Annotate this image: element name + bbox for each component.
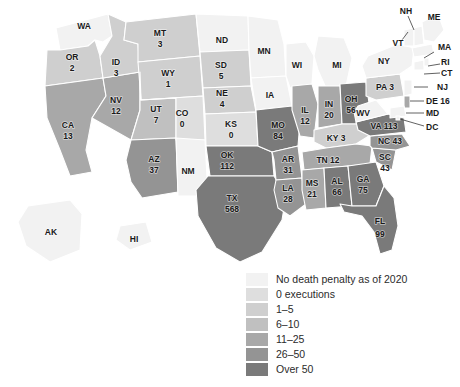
label-OR: OR	[66, 52, 79, 62]
leader-line-ri	[428, 64, 440, 66]
legend-swatch-none	[246, 273, 268, 286]
value-TX: 568	[225, 204, 239, 214]
legend-swatch-26-50	[246, 348, 268, 361]
legend-item-26-50[interactable]: 26–50	[246, 347, 460, 362]
label-SC: SC	[379, 152, 391, 162]
label-IN: IN	[325, 99, 334, 109]
label-MI: MI	[332, 60, 341, 70]
label-IL: IL	[301, 105, 309, 115]
legend-item-over-50[interactable]: Over 50	[246, 362, 460, 377]
value-AZ: 37	[149, 165, 159, 175]
legend-item-6-10[interactable]: 6–10	[246, 317, 460, 332]
label-RI: RI	[441, 57, 450, 67]
value-FL: 99	[375, 229, 385, 239]
label-NE: NE	[216, 88, 228, 98]
label-AK: AK	[45, 227, 58, 237]
value-ID: 3	[114, 68, 119, 78]
state-RI[interactable]	[424, 58, 429, 66]
label-WI: WI	[292, 60, 302, 70]
label-TX: TX	[227, 193, 238, 203]
map-legend: No death penalty as of 2020 0 executions…	[246, 272, 460, 377]
state-NE[interactable]	[203, 86, 256, 114]
state-CA[interactable]	[45, 78, 106, 176]
label-AR: AR	[282, 154, 294, 164]
label-HI: HI	[130, 234, 139, 244]
label-MA: MA	[438, 42, 451, 52]
label-NM: NM	[181, 166, 194, 176]
state-DC[interactable]	[396, 116, 400, 120]
label-DC: DC	[426, 122, 438, 132]
label-NJ: NJ	[437, 82, 448, 92]
label-LA: LA	[282, 183, 293, 193]
value-SD: 5	[219, 71, 224, 81]
label-CO: CO	[176, 108, 189, 118]
value-OK: 112	[220, 161, 234, 171]
state-OK[interactable]	[206, 146, 274, 176]
execution-map-figure: WA OR 2 CA 13 NV 12 ID 3 MT 3 WY 1 UT 7 …	[0, 0, 460, 387]
label-CA: CA	[62, 120, 74, 130]
state-WA[interactable]	[56, 14, 112, 50]
legend-item-1-5[interactable]: 1–5	[246, 302, 460, 317]
label-KS: KS	[225, 119, 237, 129]
legend-label-zero: 0 executions	[276, 288, 335, 301]
label-GA: GA	[357, 174, 370, 184]
value-CO: 0	[180, 119, 185, 129]
label-ME: ME	[428, 12, 441, 22]
label-NY: NY	[378, 56, 390, 66]
label-MD: MD	[426, 108, 439, 118]
legend-label-none: No death penalty as of 2020	[276, 273, 407, 286]
label-NC: NC 43	[378, 136, 402, 146]
label-ID: ID	[112, 57, 121, 67]
state-ND[interactable]	[196, 14, 249, 52]
value-MO: 84	[273, 131, 283, 141]
label-AL: AL	[331, 176, 342, 186]
label-ND: ND	[216, 35, 228, 45]
value-KS: 0	[229, 130, 234, 140]
state-DE[interactable]	[404, 96, 410, 108]
label-DE: DE 16	[426, 96, 450, 106]
legend-item-zero[interactable]: 0 executions	[246, 287, 460, 302]
label-FL: FL	[375, 216, 385, 226]
value-NV: 12	[111, 106, 121, 116]
label-OK: OK	[221, 150, 235, 160]
value-OR: 2	[70, 63, 75, 73]
value-OH: 56	[346, 105, 356, 115]
legend-swatch-6-10	[246, 318, 268, 331]
value-AL: 66	[332, 187, 342, 197]
label-WY: WY	[161, 68, 175, 78]
legend-label-6-10: 6–10	[276, 318, 299, 331]
state-VT[interactable]	[404, 28, 414, 46]
label-PA: PA 3	[376, 82, 394, 92]
label-NH: NH	[400, 6, 412, 16]
label-IA: IA	[266, 90, 275, 100]
legend-swatch-11-25	[246, 333, 268, 346]
legend-label-26-50: 26–50	[276, 348, 305, 361]
value-IL: 12	[300, 116, 310, 126]
label-WV: WV	[356, 108, 370, 118]
leader-line-ct	[424, 73, 440, 74]
label-OH: OH	[345, 94, 358, 104]
legend-swatch-1-5	[246, 303, 268, 316]
label-NV: NV	[110, 95, 122, 105]
legend-item-11-25[interactable]: 11–25	[246, 332, 460, 347]
label-AZ: AZ	[148, 154, 159, 164]
state-TX[interactable]	[196, 176, 286, 262]
state-CT[interactable]	[414, 60, 424, 70]
label-MS: MS	[306, 178, 319, 188]
label-MN: MN	[257, 46, 270, 56]
legend-swatch-over-50	[246, 363, 268, 376]
label-MO: MO	[271, 120, 285, 130]
value-WY: 1	[166, 79, 171, 89]
value-MS: 21	[307, 189, 317, 199]
value-MT: 3	[158, 39, 163, 49]
label-MT: MT	[154, 28, 167, 38]
value-LA: 28	[283, 194, 293, 204]
leader-line-nh	[408, 16, 414, 30]
value-UT: 7	[154, 115, 159, 125]
label-SD: SD	[215, 60, 227, 70]
legend-label-1-5: 1–5	[276, 303, 294, 316]
legend-item-none[interactable]: No death penalty as of 2020	[246, 272, 460, 287]
state-NJ[interactable]	[404, 80, 412, 96]
label-WA: WA	[77, 21, 91, 31]
label-VT: VT	[393, 38, 405, 48]
